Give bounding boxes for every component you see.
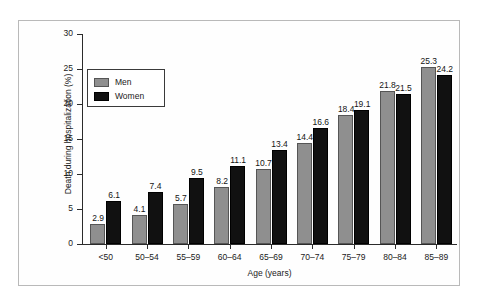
y-tick-label-5: 5: [53, 204, 73, 212]
bar-value-label-women: 6.1: [103, 190, 125, 200]
bar-women: [272, 150, 287, 244]
y-tick-0: [77, 244, 83, 245]
bar-group: 14.416.6: [297, 33, 328, 244]
bar-value-label-women: 7.4: [145, 181, 167, 191]
x-category-label: 85–89: [409, 252, 463, 262]
y-tick-label-20: 20: [53, 99, 73, 107]
bar-group: 5.79.5: [173, 33, 204, 244]
x-tick-3: [230, 244, 231, 249]
bar-women: [313, 128, 328, 244]
bar-men: [90, 224, 105, 244]
x-tick-6: [354, 244, 355, 249]
x-axis-line: [82, 244, 457, 245]
bar-value-label-women: 24.2: [434, 64, 456, 74]
legend-label-men: Men: [115, 77, 132, 87]
bar-women: [396, 94, 411, 245]
y-tick-label-0: 0: [53, 239, 73, 247]
x-axis-title: Age (years): [82, 268, 457, 278]
plot-area: 2.96.14.17.45.79.58.211.110.713.414.416.…: [82, 34, 454, 244]
x-tick-5: [312, 244, 313, 249]
x-tick-0: [106, 244, 107, 249]
bar-value-label-women: 11.1: [227, 155, 249, 165]
bar-value-label-women: 13.4: [269, 139, 291, 149]
bar-women: [189, 178, 204, 245]
bar-women: [354, 110, 369, 244]
x-tick-7: [395, 244, 396, 249]
x-tick-8: [436, 244, 437, 249]
bar-women: [437, 75, 452, 244]
bar-value-label-women: 16.6: [310, 117, 332, 127]
bar-group: 4.17.4: [132, 33, 163, 244]
bar-women: [106, 201, 121, 244]
bar-men: [380, 91, 395, 244]
bar-group: 25.324.2: [421, 33, 452, 244]
bar-value-label-women: 21.5: [393, 83, 415, 93]
y-tick-label-30: 30: [53, 29, 73, 37]
bar-men: [214, 187, 229, 244]
legend-item-women: Women: [94, 89, 164, 103]
bar-men: [256, 169, 271, 244]
bar-group: 21.821.5: [380, 33, 411, 244]
figure-frame: Death during hospitalization (%) 0510152…: [18, 20, 460, 286]
bar-group: 18.419.1: [338, 33, 369, 244]
bar-value-label-women: 9.5: [186, 167, 208, 177]
y-tick-label-10: 10: [53, 169, 73, 177]
bar-men: [421, 67, 436, 244]
bar-women: [230, 166, 245, 244]
legend-swatch-women: [94, 92, 109, 101]
legend-swatch-men: [94, 78, 109, 87]
bar-value-label-women: 19.1: [351, 99, 373, 109]
bar-men: [132, 215, 147, 244]
x-tick-1: [147, 244, 148, 249]
x-tick-4: [271, 244, 272, 249]
x-tick-2: [188, 244, 189, 249]
legend-item-men: Men: [94, 75, 164, 89]
bar-women: [148, 192, 163, 244]
bar-group: 10.713.4: [256, 33, 287, 244]
legend-label-women: Women: [115, 91, 144, 101]
chart-legend: Men Women: [87, 69, 165, 107]
y-tick-label-15: 15: [53, 134, 73, 142]
y-tick-label-25: 25: [53, 64, 73, 72]
bar-men: [173, 204, 188, 244]
bar-group: 8.211.1: [214, 33, 245, 244]
bar-group: 2.96.1: [90, 33, 121, 244]
bar-men: [297, 143, 312, 244]
bar-men: [338, 115, 353, 244]
